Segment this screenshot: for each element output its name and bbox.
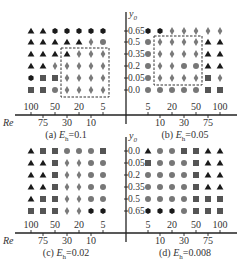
x-tick-label: 10 xyxy=(86,236,96,246)
triangle-marker xyxy=(28,148,35,154)
y-tick-label: 0.05 xyxy=(128,158,145,168)
x-tick-label: 100 xyxy=(24,220,39,230)
diamond-marker xyxy=(65,207,70,215)
circle-marker xyxy=(157,87,163,93)
circle-marker xyxy=(88,184,94,190)
hexagon-marker xyxy=(64,28,69,34)
diamond-marker xyxy=(101,50,106,58)
circle-marker xyxy=(181,196,187,202)
diamond-marker xyxy=(170,50,175,58)
circle-marker xyxy=(169,148,175,154)
y-tick-label: 0.05 xyxy=(128,73,145,83)
diamond-marker xyxy=(194,50,199,58)
x-tick-label: 75 xyxy=(203,236,213,246)
circle-marker xyxy=(193,63,199,69)
circle-marker xyxy=(145,184,151,190)
triangle-marker xyxy=(40,39,47,45)
hexagon-marker xyxy=(157,28,162,34)
diamond-marker xyxy=(65,183,70,191)
diamond-marker xyxy=(194,38,199,46)
circle-marker xyxy=(157,148,163,154)
circle-marker xyxy=(64,148,70,154)
square-marker xyxy=(52,148,58,154)
circle-marker xyxy=(145,51,151,57)
triangle-marker xyxy=(28,28,35,34)
x-tick-label: 10 xyxy=(86,118,96,128)
triangle-marker xyxy=(205,172,212,178)
triangle-marker xyxy=(217,184,224,190)
triangle-marker xyxy=(64,51,71,57)
circle-marker xyxy=(181,63,187,69)
square-marker xyxy=(205,196,211,202)
diamond-marker xyxy=(77,207,82,215)
y-tick-label: 0.0 xyxy=(128,85,140,95)
x-tick-label: 100 xyxy=(213,220,228,230)
square-marker xyxy=(40,75,46,81)
square-marker xyxy=(193,148,199,154)
x-tick-label: 30 xyxy=(62,236,72,246)
circle-marker xyxy=(157,160,163,166)
triangle-marker xyxy=(28,184,35,190)
circle-marker xyxy=(181,172,187,178)
x-tick-label: 20 xyxy=(167,220,177,230)
triangle-marker xyxy=(205,51,212,57)
circle-marker xyxy=(169,160,175,166)
diamond-marker xyxy=(170,62,175,70)
diamond-marker xyxy=(182,38,187,46)
diamond-marker xyxy=(89,74,94,82)
triangle-marker xyxy=(205,39,212,45)
circle-marker xyxy=(145,87,151,93)
diamond-marker xyxy=(77,62,82,70)
x-tick-label: 75 xyxy=(38,236,48,246)
y-tick-label: 0.0 xyxy=(128,146,140,156)
square-marker xyxy=(193,196,199,202)
diamond-marker xyxy=(89,86,94,94)
triangle-marker xyxy=(64,39,71,45)
diamond-marker xyxy=(101,62,106,70)
diamond-marker xyxy=(182,74,187,82)
circle-marker xyxy=(145,63,151,69)
diamond-marker xyxy=(158,62,163,70)
circle-marker xyxy=(100,172,106,178)
hexagon-marker xyxy=(145,28,150,34)
circle-marker xyxy=(145,172,151,178)
square-marker xyxy=(181,148,187,154)
square-marker xyxy=(52,172,58,178)
triangle-marker xyxy=(40,63,47,69)
panel-caption-d: (d) Eh=0.008 xyxy=(159,247,211,263)
circle-marker xyxy=(157,184,163,190)
triangle-marker xyxy=(28,196,35,202)
diamond-marker xyxy=(77,86,82,94)
x-axis-name: Re xyxy=(3,118,14,128)
diamond-marker xyxy=(65,159,70,167)
circle-marker xyxy=(181,208,187,214)
diamond-marker xyxy=(170,38,175,46)
hexagon-marker xyxy=(100,28,105,34)
square-marker xyxy=(217,196,223,202)
diamond-marker xyxy=(158,74,163,82)
circle-marker xyxy=(169,196,175,202)
diamond-marker xyxy=(158,38,163,46)
diamond-marker xyxy=(89,38,94,46)
triangle-marker xyxy=(40,51,47,57)
square-marker xyxy=(40,196,46,202)
diamond-marker xyxy=(218,74,223,82)
diamond-marker xyxy=(77,159,82,167)
diamond-marker xyxy=(65,195,70,203)
square-marker xyxy=(52,160,58,166)
triangle-marker xyxy=(28,160,35,166)
x-tick-label: 5 xyxy=(146,220,151,230)
triangle-marker xyxy=(205,160,212,166)
panel-caption-a: (a) Eh=0.1 xyxy=(45,129,86,145)
triangle-marker xyxy=(40,184,47,190)
square-marker xyxy=(40,148,46,154)
x-tick-label: 20 xyxy=(74,220,84,230)
triangle-marker xyxy=(28,63,35,69)
x-tick-label: 5 xyxy=(146,102,151,112)
diamond-marker xyxy=(77,183,82,191)
x-tick-label: 100 xyxy=(24,102,39,112)
hexagon-marker xyxy=(76,28,81,34)
circle-marker xyxy=(100,39,106,45)
y-axis-name: y0 xyxy=(129,131,137,145)
x-axis-name: Re xyxy=(3,236,14,246)
